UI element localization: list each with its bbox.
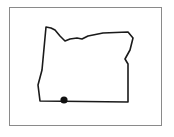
location-marker-icon[interactable]: [60, 96, 67, 103]
oregon-outline: [38, 27, 133, 102]
oregon-map: [0, 0, 174, 137]
